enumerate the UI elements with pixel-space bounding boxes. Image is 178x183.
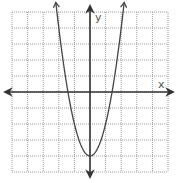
axes [5, 6, 173, 177]
parabola-chart: x y [0, 0, 178, 183]
y-axis-label: y [95, 11, 102, 24]
x-axis-label: x [158, 78, 165, 91]
